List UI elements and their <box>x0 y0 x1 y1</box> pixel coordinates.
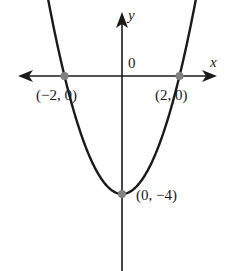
y-axis-label: y <box>126 7 135 23</box>
axes <box>18 12 217 271</box>
point-label-right-intercept: (2, 0) <box>155 87 188 104</box>
origin-label: 0 <box>128 55 136 71</box>
point-marker <box>61 72 69 80</box>
point-label-vertex: (0, −4) <box>136 187 177 204</box>
point-label-left-intercept: (−2, 0) <box>36 87 77 104</box>
point-marker <box>176 72 184 80</box>
point-marker <box>118 190 126 198</box>
x-axis-label: x <box>209 54 217 70</box>
parabola-chart: y x 0 (−2, 0) (2, 0) (0, −4) <box>0 0 225 271</box>
